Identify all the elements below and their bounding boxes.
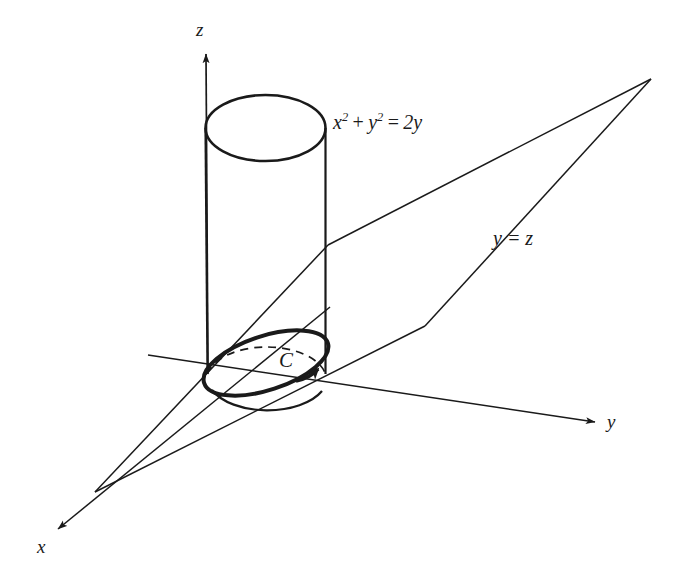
- x-axis: [58, 307, 330, 529]
- x-axis-label: x: [37, 537, 45, 556]
- cylinder-base-visible-arc: [212, 390, 322, 410]
- cylinder-eq-rhs: 2y: [403, 111, 422, 133]
- cylinder-eq-x: x: [333, 111, 342, 133]
- cylinder-top-ellipse: [206, 95, 326, 161]
- figure-container: x y z x2+y2=2y y = z C: [0, 0, 683, 581]
- cylinder-eq-equals: =: [383, 111, 403, 133]
- plane-equation-label: y = z: [493, 228, 533, 248]
- geometry-diagram: [0, 0, 683, 581]
- z-axis-label: z: [196, 20, 203, 39]
- cylinder-eq-plus: +: [348, 111, 368, 133]
- y-axis-label: y: [607, 412, 615, 431]
- plane-edge-lower-left: [95, 245, 328, 492]
- curve-c-label: C: [279, 350, 293, 371]
- plane-edge-right: [425, 79, 651, 326]
- plane-edge-upper-left: [328, 79, 651, 245]
- plane-eq-text: y = z: [493, 227, 533, 249]
- cylinder: [206, 95, 326, 410]
- cylinder-equation-label: x2+y2=2y: [333, 112, 422, 132]
- cylinder-eq-y: y: [368, 111, 377, 133]
